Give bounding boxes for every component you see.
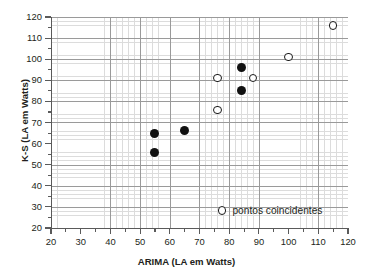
x-axis-tick [258, 228, 259, 234]
y-axis-minor-tick [48, 196, 52, 197]
x-axis-tick-label: 40 [95, 236, 125, 247]
x-axis-minor-tick [214, 228, 215, 232]
y-axis-tick [45, 80, 51, 81]
x-axis-minor-tick [273, 228, 274, 232]
y-axis-tick-label: 30 [12, 201, 42, 212]
x-axis-tick [288, 228, 289, 234]
y-axis-title: K-S (LA em Watts) [19, 41, 30, 201]
y-axis-minor-tick [48, 175, 52, 176]
y-axis-line [51, 17, 52, 229]
x-axis-tick-label: 30 [66, 236, 96, 247]
y-axis-minor-tick [48, 217, 52, 218]
y-axis-tick [45, 101, 51, 102]
x-axis-minor-tick [184, 228, 185, 232]
x-axis-tick [110, 228, 111, 234]
plot-area [51, 17, 348, 228]
x-axis-minor-tick [154, 228, 155, 232]
scatter-chart: 2030405060708090100110120203040506070809… [0, 0, 373, 275]
data-point-open [213, 106, 221, 114]
data-point-filled [150, 148, 159, 157]
y-axis-tick [45, 122, 51, 123]
data-point-filled [237, 86, 246, 95]
x-axis-tick [140, 228, 141, 234]
y-axis-tick [45, 16, 51, 17]
y-axis-minor-tick [48, 27, 52, 28]
y-axis-tick [45, 164, 51, 165]
x-axis-tick-label: 20 [36, 236, 66, 247]
x-axis-tick-label: 90 [244, 236, 274, 247]
data-point-open [213, 74, 221, 82]
y-axis-tick [45, 206, 51, 207]
x-axis-minor-tick [244, 228, 245, 232]
legend-label: pontos coincidentes [232, 205, 322, 216]
y-axis-minor-tick [48, 90, 52, 91]
x-axis-tick-label: 110 [303, 236, 333, 247]
x-axis-tick-label: 120 [333, 236, 363, 247]
grid-major [51, 17, 348, 228]
x-axis-minor-tick [333, 228, 334, 232]
chart-legend: pontos coincidentes [218, 205, 322, 216]
y-axis-minor-tick [48, 111, 52, 112]
x-axis-minor-tick [303, 228, 304, 232]
y-axis-tick-label: 20 [12, 222, 42, 233]
y-axis-minor-tick [48, 154, 52, 155]
x-axis-tick-label: 60 [155, 236, 185, 247]
x-axis-tick [199, 228, 200, 234]
x-axis-minor-tick [125, 228, 126, 232]
x-axis-title: ARIMA (LA em Watts) [0, 256, 373, 267]
y-axis-tick [45, 143, 51, 144]
y-axis-minor-tick [48, 133, 52, 134]
y-axis-minor-tick [48, 69, 52, 70]
data-point-filled [150, 129, 159, 138]
y-axis-tick [45, 59, 51, 60]
legend-open-circle-icon [218, 206, 226, 214]
x-axis-tick [318, 228, 319, 234]
y-axis-minor-tick [48, 48, 52, 49]
y-axis-tick [45, 38, 51, 39]
x-axis-tick [229, 228, 230, 234]
x-axis-tick [80, 228, 81, 234]
x-axis-tick-label: 100 [274, 236, 304, 247]
data-point-filled [237, 63, 246, 72]
data-point-open [284, 53, 292, 61]
x-axis-tick-label: 50 [125, 236, 155, 247]
x-axis-minor-tick [65, 228, 66, 232]
x-axis-tick-label: 70 [185, 236, 215, 247]
x-axis-tick [50, 228, 51, 234]
y-axis-tick-label: 120 [12, 11, 42, 22]
data-point-open [329, 21, 337, 29]
x-axis-tick [347, 228, 348, 234]
x-axis-tick [169, 228, 170, 234]
y-axis-tick [45, 185, 51, 186]
x-axis-tick-label: 80 [214, 236, 244, 247]
x-axis-minor-tick [95, 228, 96, 232]
